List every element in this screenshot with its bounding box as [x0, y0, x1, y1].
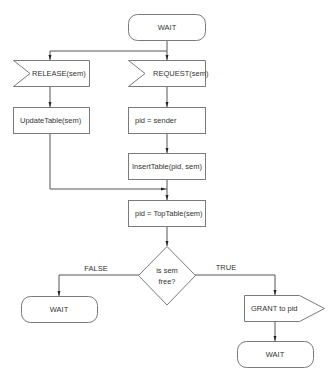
- edge-label-true: TRUE: [216, 263, 236, 272]
- node-label: RELEASE(sem): [32, 69, 86, 78]
- node-label: WAIT: [266, 350, 285, 359]
- node-release-signal: RELEASE(sem): [14, 61, 90, 87]
- arrow-down-icon: [49, 102, 52, 107]
- node-update-table: UpdateTable(sem): [14, 108, 90, 134]
- edge-label-false: FALSE: [84, 264, 107, 273]
- node-label: pid = sender: [135, 116, 177, 125]
- edge-wait-to-release: [50, 51, 167, 60]
- node-label: WAIT: [158, 23, 177, 32]
- edge-decision-false: [59, 275, 139, 296]
- arrow-right-icon: [161, 188, 166, 191]
- node-top-table: pid = TopTable(sem): [129, 201, 206, 227]
- node-label: InsertTable(pid, sem): [132, 162, 203, 171]
- node-label: free?: [158, 277, 175, 286]
- node-label: UpdateTable(sem): [20, 116, 82, 125]
- node-insert-table: InsertTable(pid, sem): [129, 154, 206, 180]
- arrow-down-icon: [166, 241, 169, 246]
- arrow-down-icon: [166, 195, 169, 200]
- node-request-signal: REQUEST(sem): [129, 61, 209, 87]
- node-label: WAIT: [50, 305, 69, 314]
- node-grant-signal: GRANT to pid: [245, 296, 325, 322]
- arrow-down-icon: [166, 148, 169, 153]
- node-label: is sem: [156, 266, 178, 275]
- edge-decision-true: [195, 275, 275, 295]
- flowchart-canvas: WAIT RELEASE(sem) REQUEST(sem) UpdateTab…: [0, 0, 335, 379]
- node-start-wait: WAIT: [129, 15, 206, 41]
- node-label: pid = TopTable(sem): [135, 209, 203, 218]
- node-end-wait: WAIT: [238, 342, 314, 368]
- arrow-down-icon: [274, 290, 277, 295]
- node-decision-sem-free: is sem free?: [139, 247, 196, 306]
- arrow-down-icon: [49, 55, 52, 60]
- arrow-down-icon: [166, 102, 169, 107]
- node-pid-sender: pid = sender: [129, 108, 206, 134]
- node-label: GRANT to pid: [251, 304, 298, 313]
- node-label: REQUEST(sem): [153, 69, 209, 78]
- node-false-wait: WAIT: [22, 297, 98, 323]
- arrow-down-icon: [274, 336, 277, 341]
- arrow-down-icon: [166, 55, 169, 60]
- arrow-down-icon: [58, 291, 61, 296]
